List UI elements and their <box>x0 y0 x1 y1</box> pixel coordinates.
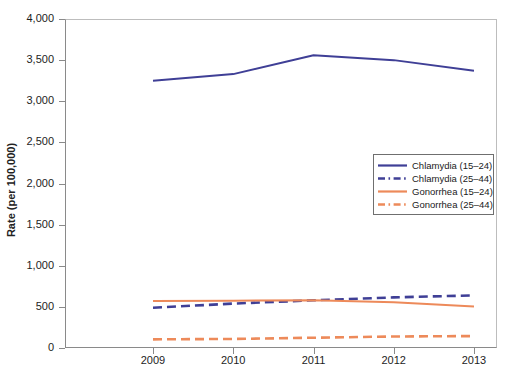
y-axis-tick-label: 500 <box>10 300 54 312</box>
y-axis-tick-label: 1,000 <box>10 259 54 271</box>
x-axis-tick-label: 2010 <box>203 354 263 366</box>
y-axis-tick-label: 2,000 <box>10 177 54 189</box>
legend-item-label: Gonorrhea (15–24) <box>412 186 493 197</box>
y-axis-tick-label: 1,500 <box>10 218 54 230</box>
y-axis-tick <box>59 307 65 308</box>
legend-item-label: Chlamydia (15–24) <box>412 160 492 171</box>
x-axis-tick-label: 2009 <box>123 354 183 366</box>
y-axis-tick <box>59 184 65 185</box>
legend-dashed-line-swatch-icon <box>377 173 408 184</box>
y-axis-tick <box>59 225 65 226</box>
y-axis-tick-label: 3,000 <box>10 94 54 106</box>
x-axis-tick-label: 2011 <box>284 354 344 366</box>
y-axis-tick <box>59 60 65 61</box>
x-axis-tick-label: 2012 <box>364 354 424 366</box>
legend-item[interactable]: Chlamydia (25–44) <box>377 172 489 184</box>
chart-legend: Chlamydia (15–24) Chlamydia (25–44) Gono… <box>373 154 494 215</box>
y-axis-tick <box>59 348 65 349</box>
legend-item[interactable]: Gonorrhea (15–24) <box>377 185 489 197</box>
legend-line-swatch-icon <box>377 160 408 171</box>
y-axis-tick <box>59 142 65 143</box>
y-axis-tick-label: 4,000 <box>10 12 54 24</box>
x-axis-tick-label: 2013 <box>444 354 504 366</box>
y-axis-tick-label: 0 <box>10 341 54 353</box>
legend-line-swatch-icon <box>377 186 408 197</box>
y-axis-tick <box>59 266 65 267</box>
legend-item-label: Chlamydia (25–44) <box>412 173 492 184</box>
legend-dashed-line-swatch-icon <box>377 199 408 210</box>
legend-item-label: Gonorrhea (25–44) <box>412 199 493 210</box>
y-axis-tick <box>59 19 65 20</box>
y-axis-tick-label: 3,500 <box>10 53 54 65</box>
legend-item[interactable]: Chlamydia (15–24) <box>377 159 489 171</box>
chart-figure: Rate (per 100,000) 05001,0001,5002,0002,… <box>0 0 529 380</box>
legend-item[interactable]: Gonorrhea (25–44) <box>377 198 489 210</box>
y-axis-tick <box>59 101 65 102</box>
y-axis-tick-label: 2,500 <box>10 135 54 147</box>
